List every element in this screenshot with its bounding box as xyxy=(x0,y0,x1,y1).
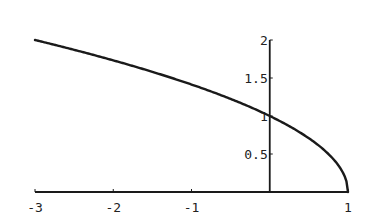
x-tick-label: 1 xyxy=(344,200,352,215)
y-tick-label: 1.5 xyxy=(244,71,267,86)
data-curve xyxy=(35,40,348,192)
tick-labels: -3-2-110.511.52 xyxy=(27,33,352,215)
chart: -3-2-110.511.52 xyxy=(0,0,367,220)
axes xyxy=(35,40,348,192)
y-tick-label: 0.5 xyxy=(244,147,267,162)
x-tick-label: -2 xyxy=(105,200,121,215)
x-tick-label: -3 xyxy=(27,200,43,215)
x-tick-label: -1 xyxy=(184,200,200,215)
ticks xyxy=(35,40,348,192)
y-tick-label: 2 xyxy=(260,33,268,48)
